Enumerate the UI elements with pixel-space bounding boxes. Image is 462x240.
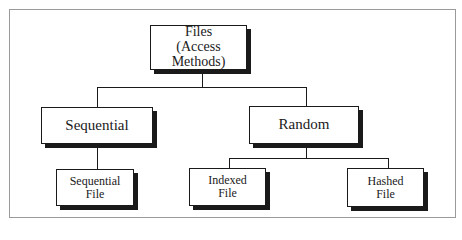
connector-to-random xyxy=(306,87,307,106)
node-random: Random xyxy=(249,106,359,144)
node-hashed-file-line2: File xyxy=(376,188,395,201)
node-sequential-file: Sequential File xyxy=(56,169,134,206)
node-indexed-file: Indexed File xyxy=(189,168,266,206)
node-sequential: Sequential xyxy=(41,107,153,144)
node-indexed-file-line2: File xyxy=(218,187,237,200)
node-hashed-file: Hashed File xyxy=(347,168,424,207)
connector-random-down xyxy=(306,144,307,158)
node-sequential-label: Sequential xyxy=(65,118,128,134)
connector-to-sequential xyxy=(97,87,98,107)
node-random-label: Random xyxy=(279,117,330,133)
node-files-access-methods: Files (Access Methods) xyxy=(150,25,247,70)
connector-to-hashed xyxy=(388,158,389,168)
connector-random-bar xyxy=(229,158,389,159)
node-sequential-file-line1: Sequential xyxy=(70,175,121,188)
node-root-line1: Files xyxy=(185,25,212,40)
connector-sequential-down xyxy=(97,144,98,169)
connector-to-indexed xyxy=(229,158,230,168)
connector-level1-bar xyxy=(97,87,307,88)
node-root-line2: (Access Methods) xyxy=(151,40,246,69)
node-hashed-file-line1: Hashed xyxy=(368,175,404,188)
connector-root-down xyxy=(202,70,203,87)
node-sequential-file-line2: File xyxy=(86,188,105,201)
